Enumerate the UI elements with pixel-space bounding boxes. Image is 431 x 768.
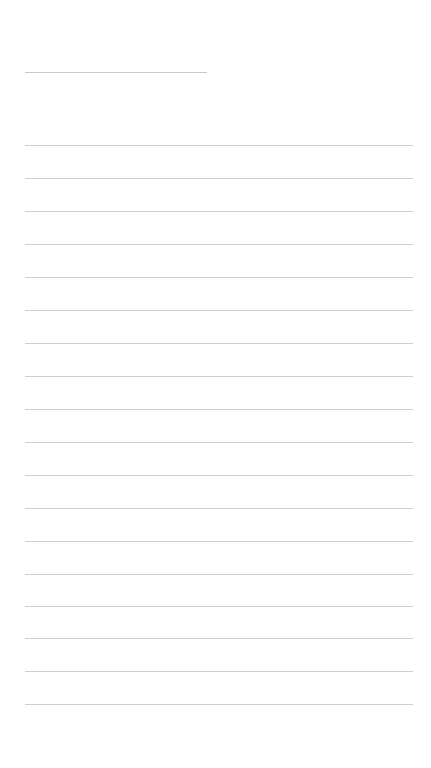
ruled-line <box>25 475 413 476</box>
ruled-line <box>25 211 413 212</box>
ruled-lines <box>0 0 431 768</box>
ruled-line <box>25 277 413 278</box>
ruled-line <box>25 704 413 705</box>
ruled-line <box>25 442 413 443</box>
ruled-line <box>25 376 413 377</box>
ruled-line <box>25 541 413 542</box>
ruled-line <box>25 310 413 311</box>
ruled-line <box>25 343 413 344</box>
ruled-line <box>25 145 413 146</box>
ruled-line <box>25 638 413 639</box>
ruled-line <box>25 409 413 410</box>
ruled-line <box>25 606 413 607</box>
ruled-line <box>25 178 413 179</box>
ruled-line <box>25 244 413 245</box>
ruled-line <box>25 574 413 575</box>
ruled-line <box>25 508 413 509</box>
ruled-line <box>25 671 413 672</box>
lined-page <box>0 0 431 768</box>
